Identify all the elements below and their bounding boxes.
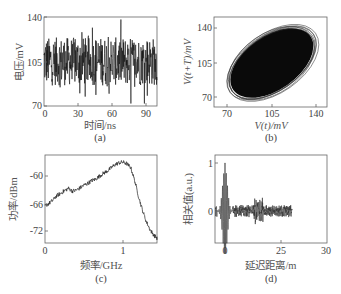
panel-a-voltage-trace (44, 20, 157, 104)
panel-d: 1 0 0 25 30 延迟距离/m 相关值(a.u.) (d) (182, 155, 331, 285)
panel-d-xtick: 0 (223, 245, 228, 256)
panel-b-xlabel: V(t)/mV (254, 120, 289, 132)
panel-c-ytick: -60 (30, 170, 43, 181)
panel-b-xtick: 140 (309, 108, 324, 119)
panel-c-xtick: 0 (43, 245, 48, 256)
panel-d-frame (215, 155, 327, 243)
panel-b-ytick: 70 (202, 92, 212, 103)
panel-b-ytick: 140 (197, 22, 212, 33)
panel-a-xtick: 30 (73, 108, 83, 119)
panel-d-caption: (d) (265, 273, 278, 285)
panel-a: 140 105 70 0 30 60 90 时间/ns 电压/mV (a) (13, 12, 157, 144)
panel-b-ytick: 105 (197, 58, 212, 69)
panel-c-xtick: 1 (121, 245, 126, 256)
panel-a-xtick: 0 (43, 108, 48, 119)
panel-c-spectrum-trace (45, 161, 157, 240)
panel-b-attractor (213, 9, 332, 117)
panel-b-caption: (b) (265, 132, 278, 144)
panel-d-ylabel: 相关值(a.u.) (182, 172, 195, 225)
panel-a-xlabel: 时间/ns (84, 119, 116, 131)
panel-a-xtick: 60 (107, 108, 117, 119)
panel-c-xlabel: 频率/GHz (80, 259, 123, 271)
panel-d-xlabel: 延迟距离/m (245, 259, 296, 271)
panel-d-ytick: 0 (208, 206, 213, 217)
panel-c-ytick: -66 (30, 199, 43, 210)
panel-a-ytick: 70 (32, 100, 42, 111)
panel-b-xtick: 105 (265, 108, 280, 119)
panel-c: -60 -66 -72 0 1 频率/GHz 功率/dBm (c) (7, 155, 157, 285)
panel-d-ytick: 1 (208, 158, 213, 169)
panel-a-xtick: 90 (141, 108, 151, 119)
panel-a-ytick: 140 (27, 12, 42, 23)
panel-b-ylabel: V(t+T)/mV (182, 37, 194, 85)
panel-a-ytick: 105 (27, 57, 42, 68)
panel-b-xtick: 70 (222, 108, 232, 119)
figure: 140 105 70 0 30 60 90 时间/ns 电压/mV (a) 14… (0, 0, 341, 294)
panel-a-ylabel: 电压/mV (13, 42, 25, 81)
panel-b: 140 105 70 70 105 140 V(t)/mV V(t+T)/mV … (182, 9, 333, 144)
panel-c-caption: (c) (95, 273, 107, 285)
panel-d-xtick: 25 (276, 245, 286, 256)
panel-c-ylabel: 功率/dBm (7, 177, 19, 220)
panel-c-frame (45, 155, 157, 243)
panel-a-caption: (a) (94, 132, 106, 144)
panel-c-ytick: -72 (30, 225, 43, 236)
panel-d-xtick: 30 (321, 245, 331, 256)
panel-c-ticks (45, 176, 123, 243)
